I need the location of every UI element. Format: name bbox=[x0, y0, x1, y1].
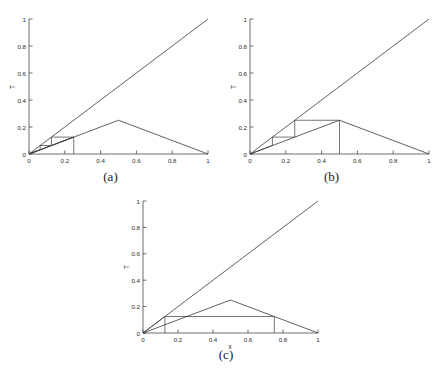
identity-line bbox=[143, 201, 318, 333]
y-tick-label: 0.2 bbox=[238, 124, 247, 131]
y-tick-label: 0.2 bbox=[131, 303, 140, 310]
x-tick-label: 0.4 bbox=[209, 336, 218, 343]
panel-c-y-tick-labels: 0 0.2 0.4 0.6 0.8 1 bbox=[131, 198, 140, 337]
y-tick-label: 1 bbox=[137, 198, 141, 205]
y-tick-label: 0.2 bbox=[17, 124, 26, 131]
x-tick-label: 0.2 bbox=[281, 157, 290, 164]
x-tick-label: 0.4 bbox=[317, 157, 326, 164]
x-tick-label: 0.4 bbox=[96, 157, 105, 164]
x-tick-label: 0 bbox=[248, 157, 252, 164]
panel-b: 0 0.2 0.4 0.6 0.8 1 0 0.2 0.4 0.6 0.8 1 … bbox=[221, 6, 442, 166]
x-tick-label: 0.6 bbox=[132, 157, 141, 164]
x-tick-label: 0.8 bbox=[279, 336, 288, 343]
y-tick-label: 0.8 bbox=[238, 43, 247, 50]
panel-b-y-tick-labels: 0 0.2 0.4 0.6 0.8 1 bbox=[238, 16, 247, 158]
panel-b-plot: 0 0.2 0.4 0.6 0.8 1 0 0.2 0.4 0.6 0.8 1 … bbox=[221, 6, 442, 166]
x-tick-label: 1 bbox=[316, 336, 320, 343]
cobweb-path-inner bbox=[29, 137, 74, 154]
x-axis-title: x bbox=[116, 164, 120, 166]
x-tick-label: 0 bbox=[27, 157, 31, 164]
x-axis-title: x bbox=[337, 164, 341, 166]
y-tick-label: 0.4 bbox=[131, 277, 140, 284]
x-tick-label: 0.8 bbox=[389, 157, 398, 164]
panel-a-plot: 0 0.2 0.4 0.6 0.8 1 0 0.2 0.4 0.6 0.8 1 … bbox=[0, 6, 221, 166]
y-tick-label: 0.4 bbox=[17, 97, 26, 104]
y-tick-label: 0.6 bbox=[17, 70, 26, 77]
y-axis-title: T bbox=[9, 85, 16, 89]
y-tick-label: 0.8 bbox=[17, 43, 26, 50]
x-tick-label: 0.6 bbox=[244, 336, 253, 343]
panel-a: 0 0.2 0.4 0.6 0.8 1 0 0.2 0.4 0.6 0.8 1 … bbox=[0, 6, 221, 166]
y-tick-label: 0.8 bbox=[131, 224, 140, 231]
panel-c-x-tick-labels: 0 0.2 0.4 0.6 0.8 1 bbox=[141, 336, 320, 343]
panel-c: 0 0.2 0.4 0.6 0.8 1 0 0.2 0.4 0.6 0.8 1 … bbox=[110, 190, 342, 365]
figure-three-tent-map-cobwebs: 0 0.2 0.4 0.6 0.8 1 0 0.2 0.4 0.6 0.8 1 … bbox=[0, 0, 442, 369]
y-tick-label: 1 bbox=[244, 16, 248, 23]
x-tick-label: 0 bbox=[141, 336, 145, 343]
y-tick-label: 0 bbox=[244, 151, 248, 158]
panel-b-x-tick-labels: 0 0.2 0.4 0.6 0.8 1 bbox=[248, 157, 431, 164]
panel-c-plot: 0 0.2 0.4 0.6 0.8 1 0 0.2 0.4 0.6 0.8 1 … bbox=[110, 190, 342, 365]
y-tick-label: 0.6 bbox=[238, 70, 247, 77]
identity-line bbox=[29, 19, 208, 154]
panel-a-y-tick-labels: 0 0.2 0.4 0.6 0.8 1 bbox=[17, 16, 26, 158]
y-tick-label: 0 bbox=[23, 151, 27, 158]
x-tick-label: 1 bbox=[427, 157, 431, 164]
panel-a-caption: (a) bbox=[0, 169, 221, 185]
panel-b-caption: (b) bbox=[221, 169, 442, 185]
y-tick-label: 0.4 bbox=[238, 97, 247, 104]
x-tick-label: 0.8 bbox=[168, 157, 177, 164]
panel-c-caption: (c) bbox=[110, 347, 342, 363]
x-tick-label: 0.2 bbox=[174, 336, 183, 343]
cobweb-path-left bbox=[143, 317, 165, 334]
y-axis-title: T bbox=[123, 265, 130, 269]
x-tick-label: 0.2 bbox=[60, 157, 69, 164]
y-axis-title: T bbox=[230, 85, 237, 89]
x-tick-label: 0.6 bbox=[353, 157, 362, 164]
y-tick-label: 1 bbox=[23, 16, 27, 23]
x-tick-label: 1 bbox=[206, 157, 210, 164]
y-tick-label: 0.6 bbox=[131, 250, 140, 257]
y-tick-label: 0 bbox=[137, 330, 141, 337]
panel-a-x-tick-labels: 0 0.2 0.4 0.6 0.8 1 bbox=[27, 157, 210, 164]
